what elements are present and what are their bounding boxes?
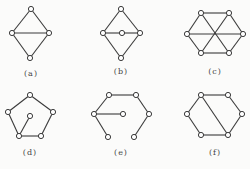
graph-b [100,6,142,60]
graph-vertex [105,134,110,139]
graph-vertex [226,10,231,15]
graph-vertex [198,92,203,97]
graph-edge [121,33,140,58]
graph-edge [103,33,121,58]
graph-edge [187,95,201,114]
graph-edge [8,112,19,136]
graph-edge [8,95,30,112]
graph-vertex [38,133,43,138]
graph-vertex [91,111,96,116]
graph-vertex [118,55,123,60]
graph-vertex [9,30,14,35]
graph-vertex [184,111,189,116]
graph-edge [94,95,109,114]
graph-vertex [240,31,245,36]
graph-a [9,6,51,60]
caption-c: (c) [208,67,222,76]
graph-vertex [100,30,105,35]
graph-edge [30,33,49,58]
graph-edge [31,9,49,33]
graph-edge [229,34,243,53]
caption-f: (f) [209,148,221,157]
graph-vertex [118,6,123,11]
graph-vertex [198,50,203,55]
graph-vertex [106,92,111,97]
graph-edge [187,13,201,34]
graph-vertex [184,31,189,36]
graph-vertex [131,134,136,139]
graph-vertex [120,111,125,116]
graph-edge [12,33,30,58]
graph-edge [229,13,243,34]
graph-edge [41,112,53,136]
graph-d [5,92,55,138]
caption-e: (e) [114,148,128,157]
graph-edge [12,9,31,33]
graph-edge [187,114,201,135]
graph-vertex [225,92,230,97]
graph-vertex [27,55,32,60]
caption-d: (d) [23,148,37,157]
graph-vertex [239,111,244,116]
graph-vertex [198,132,203,137]
graph-edge [228,114,242,135]
graph-c [184,10,245,55]
graph-edge [103,9,121,33]
graph-vertex [5,109,10,114]
graph-vertex [27,113,32,118]
graph-edge [134,114,149,137]
graph-edge [121,9,140,33]
graph-e [91,92,151,139]
graph-vertex [27,92,32,97]
graph-vertex [133,92,138,97]
graph-edge [30,95,53,112]
graph-vertex [16,133,21,138]
caption-b: (b) [114,67,128,76]
graph-edge [19,116,30,136]
graph-vertex [226,50,231,55]
graph-figure: (a) (b) (c) (d) (e) (f) [0,0,250,169]
graph-f [184,92,244,137]
graph-edge [201,95,228,135]
graph-vertex [198,10,203,15]
graph-edge [136,95,149,114]
graph-vertex [137,30,142,35]
graph-vertex [225,132,230,137]
graph-vertex [119,30,124,35]
graph-diagrams-svg [0,0,250,169]
graph-vertex [46,30,51,35]
graph-vertex [28,6,33,11]
graph-edge [228,95,242,114]
graph-vertex [146,111,151,116]
graph-edge [187,34,201,53]
caption-a: (a) [24,69,38,78]
graph-vertex [50,109,55,114]
graph-edge [94,114,108,137]
